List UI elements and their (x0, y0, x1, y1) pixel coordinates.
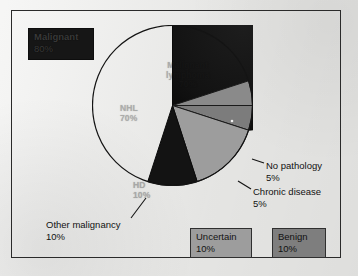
pie-svg (92, 25, 253, 186)
callout-other-malignancy-pct: 10% (46, 231, 120, 243)
pie-chart (92, 25, 253, 186)
pie-chart-figure: Malignant lymphoma 70% NHL 70% HD 10% No… (0, 0, 358, 276)
legend-benign-pct: 10% (278, 243, 320, 255)
callout-chronic-disease-name: Chronic disease (253, 186, 321, 198)
callout-no-pathology: No pathology 5% (266, 160, 322, 184)
legend-malignant-pct: 80% (34, 43, 88, 55)
legend-benign-name: Benign (278, 231, 320, 243)
callout-no-pathology-name: No pathology (266, 160, 322, 172)
legend-malignant-name: Malignant (34, 31, 88, 43)
callout-no-pathology-pct: 5% (266, 172, 322, 184)
legend-uncertain-pct: 10% (196, 243, 246, 255)
callout-other-malignancy-name: Other malignancy (46, 219, 120, 231)
callout-other-malignancy: Other malignancy 10% (46, 219, 120, 243)
legend-box-uncertain: Uncertain 10% (190, 228, 252, 258)
legend-box-malignant: Malignant 80% (28, 28, 94, 60)
callout-chronic-disease-pct: 5% (253, 198, 321, 210)
legend-uncertain-name: Uncertain (196, 231, 246, 243)
callout-chronic-disease: Chronic disease 5% (253, 186, 321, 210)
legend-box-benign: Benign 10% (272, 228, 326, 258)
scan-speck-artifact (231, 120, 234, 123)
